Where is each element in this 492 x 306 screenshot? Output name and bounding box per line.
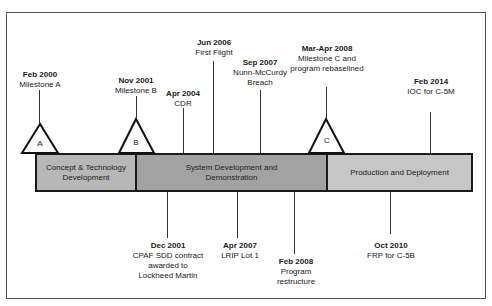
event-cdr-label: Apr 2004 CDR (166, 89, 200, 109)
milestone-b-triangle (119, 119, 154, 153)
event-first-flight-label: Jun 2006 First Flight (195, 38, 232, 58)
milestone-a-label: Feb 2000 Milestone A (19, 70, 60, 90)
leader-line-lrip (237, 192, 238, 238)
milestone-a-letter: A (37, 139, 42, 148)
milestone-c-label: Mar-Apr 2008 Milestone C and program reb… (290, 44, 363, 74)
leader-line-milestone-b (136, 96, 137, 119)
leader-line-milestone-c (326, 87, 327, 119)
leader-line-milestone-a (39, 90, 40, 124)
event-nunn-mccurdy-label: Sep 2007 Nunn-McCurdy Breach (233, 58, 287, 88)
event-lrip-label: Apr 2007 LRIP Lot 1 (221, 241, 259, 261)
leader-line-ioc (430, 112, 431, 153)
milestone-b-label: Nov 2001 Milestone B (115, 76, 157, 96)
milestone-c-letter: C (324, 136, 330, 145)
event-restructure-label: Feb 2008 Program restructure (277, 257, 315, 287)
leader-line-first-flight (213, 61, 214, 153)
leader-line-cdr (183, 108, 184, 153)
event-sdd-contract-label: Dec 2001 CPAF SDD contract awarded to Lo… (133, 241, 204, 281)
leader-line-restructure (294, 192, 295, 254)
leader-line-nunn-mccurdy (260, 90, 261, 153)
event-frp-label: Oct 2010 FRP for C-5B (367, 241, 415, 261)
leader-line-frp (390, 192, 391, 234)
milestone-b-letter: B (133, 138, 138, 147)
leader-line-sdd-contract (167, 192, 168, 238)
event-ioc-label: Feb 2014 IOC for C-5M (407, 77, 455, 97)
